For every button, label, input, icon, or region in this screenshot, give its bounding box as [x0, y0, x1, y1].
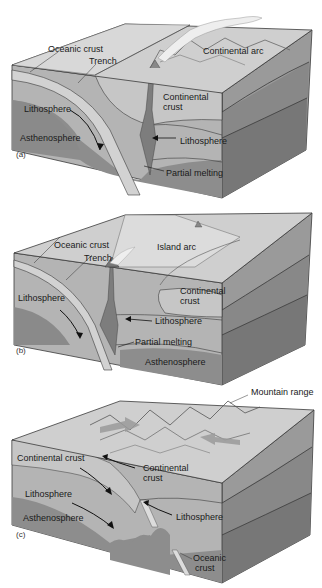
panel-b-ocean-ocean-subduction: Oceanic crust Trench Island arc Continen…: [0, 195, 322, 390]
label-oceanic-crust-c-1: Oceanic: [193, 553, 226, 563]
label-mountain-range-c: Mountain range: [251, 387, 314, 397]
label-lithosphere-right-a: Lithosphere: [180, 136, 227, 146]
label-continental-crust-b-2: crust: [180, 296, 200, 306]
label-trench-a: Trench: [89, 56, 117, 66]
label-asthenosphere-b: Asthenosphere: [145, 357, 206, 367]
label-lithosphere-right-b: Lithosphere: [155, 316, 202, 326]
label-continental-crust-right-c-1: Continental: [143, 463, 189, 473]
label-continental-crust-b-1: Continental: [180, 286, 226, 296]
label-oceanic-crust-c-2: crust: [195, 563, 215, 573]
label-lithosphere-left-a: Lithosphere: [24, 104, 71, 114]
label-lithosphere-left-b: Lithosphere: [18, 293, 65, 303]
block-diagram-c: [0, 385, 322, 588]
label-asthenosphere-c: Asthenosphere: [23, 513, 84, 523]
panel-tag-b: (b): [16, 346, 26, 355]
label-lithosphere-left-c: Lithosphere: [25, 489, 72, 499]
panel-tag-a: (a): [16, 150, 26, 159]
panel-c-continent-continent-collision: Mountain range Continental crust Contine…: [0, 385, 322, 588]
label-partial-melting-b: Partial melting: [135, 337, 192, 347]
panel-tag-c: (c): [16, 530, 25, 539]
label-continental-crust-a-2: crust: [163, 102, 183, 112]
label-island-arc-b: Island arc: [157, 242, 196, 252]
label-oceanic-crust-b: Oceanic crust: [54, 240, 109, 250]
label-partial-melting-a: Partial melting: [166, 168, 223, 178]
panel-a-ocean-continent-subduction: Oceanic crust Trench Continental arc Con…: [0, 0, 322, 200]
label-asthenosphere-a: Asthenosphere: [20, 133, 81, 143]
label-continental-crust-a-1: Continental: [163, 92, 209, 102]
label-continental-arc-a: Continental arc: [203, 46, 264, 56]
label-continental-crust-left-c: Continental crust: [17, 453, 85, 463]
label-lithosphere-right-c: Lithosphere: [176, 512, 223, 522]
label-trench-b: Trench: [84, 253, 112, 263]
label-continental-crust-right-c-2: crust: [143, 473, 163, 483]
label-oceanic-crust-a: Oceanic crust: [48, 44, 103, 54]
block-diagram-a: [0, 0, 322, 200]
